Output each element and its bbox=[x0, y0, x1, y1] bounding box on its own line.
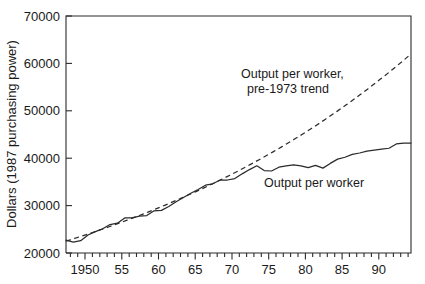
annotation-pre-1973-trend: Output per worker, pre-1973 trend bbox=[241, 67, 344, 96]
x-tick-label-1985: 85 bbox=[335, 262, 349, 277]
x-tick-label-1965: 65 bbox=[188, 262, 202, 277]
series-line-output-per-worker bbox=[66, 143, 411, 242]
x-axis-tick-labels: 1950 55 60 65 70 75 80 85 90 bbox=[71, 262, 386, 277]
y-tick-label-50000: 50000 bbox=[24, 103, 60, 118]
x-tick-label-1980: 80 bbox=[298, 262, 312, 277]
series-line-pre-1973-trend bbox=[66, 54, 411, 241]
x-tick-label-1975: 75 bbox=[261, 262, 275, 277]
y-axis-title: Dollars (1987 purchasing power) bbox=[4, 40, 19, 228]
y-tick-label-20000: 20000 bbox=[24, 246, 60, 261]
y-axis-tick-labels: 20000 30000 40000 50000 60000 70000 bbox=[24, 9, 60, 261]
chart-figure: 20000 30000 40000 50000 60000 70000 Doll… bbox=[0, 0, 425, 284]
y-tick-label-30000: 30000 bbox=[24, 198, 60, 213]
y-tick-label-40000: 40000 bbox=[24, 151, 60, 166]
axis-box bbox=[66, 16, 411, 253]
x-tick-label-1955: 55 bbox=[115, 262, 129, 277]
plot-frame bbox=[66, 16, 411, 253]
line-chart-svg: 20000 30000 40000 50000 60000 70000 Doll… bbox=[0, 0, 425, 284]
annotation-trend-line2: pre-1973 trend bbox=[247, 82, 329, 96]
x-tick-label-1950: 1950 bbox=[71, 262, 100, 277]
y-tick-label-70000: 70000 bbox=[24, 9, 60, 24]
y-tick-label-60000: 60000 bbox=[24, 56, 60, 71]
x-tick-label-1970: 70 bbox=[225, 262, 239, 277]
x-tick-label-1990: 90 bbox=[372, 262, 386, 277]
y-axis-ticks bbox=[66, 16, 72, 253]
annotation-output-per-worker: Output per worker bbox=[264, 176, 364, 190]
x-tick-label-1960: 60 bbox=[151, 262, 165, 277]
x-axis-minor-ticks bbox=[70, 253, 408, 257]
annotation-trend-line1: Output per worker, bbox=[241, 67, 344, 81]
